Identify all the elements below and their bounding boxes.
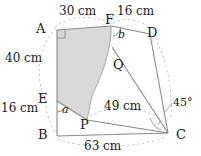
point-label-a: A — [36, 22, 45, 35]
point-label-e: E — [38, 92, 48, 105]
geometry-figure: A F D Q E P B C 30 cm 16 cm 40 cm 16 cm … — [0, 0, 201, 156]
point-label-q: Q — [113, 58, 124, 71]
point-label-c: C — [176, 128, 186, 141]
angle-b-label: b — [118, 29, 125, 40]
figure-canvas — [0, 0, 201, 156]
point-label-d: D — [147, 26, 157, 39]
segment-b-c — [57, 133, 168, 136]
point-label-p: P — [80, 118, 89, 131]
segment-f-d — [111, 26, 150, 34]
length-ae: 40 cm — [5, 52, 42, 64]
dashed-arc-a-f — [55, 17, 108, 27]
length-bc: 63 cm — [84, 140, 121, 152]
angle-c-label: 45° — [173, 97, 193, 108]
angle-a-label: a — [62, 104, 69, 115]
point-label-b: B — [38, 128, 48, 141]
angle-tick-c — [158, 121, 160, 125]
length-fd: 16 cm — [117, 5, 154, 17]
leader-45-degree — [165, 103, 172, 112]
dashed-arc-d-c — [152, 33, 171, 118]
length-af: 30 cm — [59, 5, 96, 17]
length-pc: 49 cm — [104, 100, 141, 112]
length-eb: 16 cm — [1, 102, 38, 114]
point-label-f: F — [105, 13, 114, 26]
